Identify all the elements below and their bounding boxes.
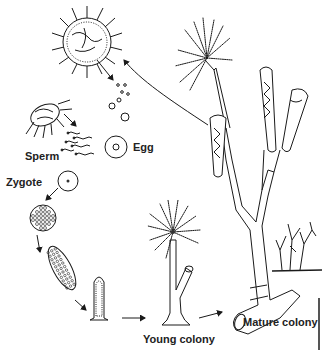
sperm-cells	[61, 132, 94, 155]
colony-sketch	[272, 222, 322, 271]
life-cycle-diagram	[0, 0, 334, 350]
label-mature-colony: Mature colony	[243, 316, 318, 328]
egg-illustration	[105, 136, 127, 158]
blastula-illustration	[30, 205, 56, 252]
zygote-illustration	[46, 171, 78, 200]
settled-polyp-illustration	[90, 277, 145, 320]
planula-illustration	[43, 243, 86, 310]
page-edge	[318, 298, 334, 350]
label-young-colony: Young colony	[143, 333, 215, 345]
medusa-illustration	[52, 6, 122, 80]
label-egg: Egg	[133, 141, 154, 153]
label-sperm: Sperm	[25, 150, 59, 162]
mature-colony-illustration	[124, 18, 308, 334]
label-zygote: Zygote	[6, 176, 42, 188]
gamete-dots	[109, 84, 129, 121]
young-colony-illustration	[148, 200, 222, 325]
